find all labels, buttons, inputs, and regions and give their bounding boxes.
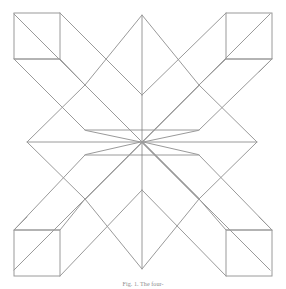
figure-container: Fig. 1. The four- [0, 0, 286, 289]
geometric-pattern-figure [0, 0, 286, 289]
figure-caption: Fig. 1. The four- [0, 281, 286, 289]
